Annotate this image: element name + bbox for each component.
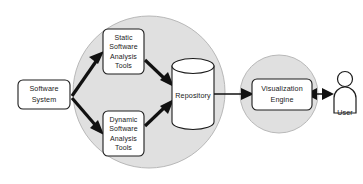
node-user[interactable]: User — [334, 72, 356, 118]
repository-cylinder-top — [172, 59, 214, 74]
node-dynamic-analysis-tools[interactable]: Dynamic Software Analysis Tools — [103, 111, 144, 156]
user-label: User — [337, 108, 353, 117]
diagram-canvas: Software System Static Software Analysis… — [0, 0, 363, 184]
dynamic-tools-label-line1: Dynamic — [110, 116, 138, 124]
static-tools-label-line1: Static — [114, 34, 133, 41]
diagram-svg: Software System Static Software Analysis… — [0, 0, 363, 184]
visualization-engine-label-line2: Engine — [271, 95, 294, 104]
node-static-analysis-tools[interactable]: Static Software Analysis Tools — [103, 29, 144, 74]
static-tools-label-line2: Software — [109, 43, 137, 50]
static-tools-label-line3: Analysis — [110, 53, 137, 61]
software-system-label-line1: Software — [29, 84, 58, 93]
software-system-label-line2: System — [32, 95, 57, 104]
dynamic-tools-label-line3: Analysis — [110, 135, 137, 143]
repository-label: Repository — [175, 91, 211, 100]
arrow-head-to-user — [322, 88, 334, 100]
user-head-icon — [338, 72, 353, 87]
node-software-system[interactable]: Software System — [18, 80, 70, 109]
node-repository[interactable]: Repository — [172, 59, 214, 130]
static-tools-label-line4: Tools — [115, 62, 132, 69]
dynamic-tools-label-line2: Software — [109, 125, 137, 132]
node-visualization-engine[interactable]: Visualization Engine — [252, 79, 312, 110]
visualization-engine-label-line1: Visualization — [261, 84, 303, 93]
dynamic-tools-label-line4: Tools — [115, 144, 132, 151]
